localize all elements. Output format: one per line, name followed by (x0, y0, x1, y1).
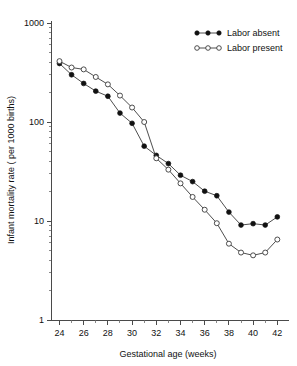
chart-legend: Labor absentLabor present (195, 28, 283, 53)
data-point (263, 250, 268, 255)
data-point (142, 120, 147, 125)
data-point (275, 237, 280, 242)
data-point (93, 74, 98, 79)
y-axis-tick-labels: 1000100101 (24, 18, 44, 325)
data-point (93, 89, 98, 94)
x-tick-label: 40 (248, 328, 258, 338)
data-point (105, 94, 110, 99)
x-tick-label: 28 (103, 328, 113, 338)
data-point (130, 105, 135, 110)
data-point (166, 161, 171, 166)
data-point (251, 253, 256, 258)
figure-container: 1000100101 24262830323436384042 Labor ab… (0, 0, 297, 366)
x-tick-label: 32 (151, 328, 161, 338)
x-tick-label: 38 (224, 328, 234, 338)
data-point (275, 215, 280, 220)
x-tick-label: 42 (272, 328, 282, 338)
data-point (251, 221, 256, 226)
x-tick-label: 34 (175, 328, 185, 338)
data-point (190, 194, 195, 199)
x-axis-title: Gestational age (weeks) (119, 349, 216, 359)
legend-item: Labor absent (195, 28, 280, 38)
y-axis-title: Infant mortality rate ( per 1000 births) (6, 96, 16, 244)
series-line (59, 61, 277, 255)
data-point (166, 167, 171, 172)
legend-marker-filled-circle-icon (206, 31, 210, 35)
legend-label: Labor absent (227, 28, 280, 38)
data-point (118, 111, 123, 116)
data-point (263, 223, 268, 228)
x-axis-tick-labels: 24262830323436384042 (54, 328, 282, 338)
legend-marker-open-circle-icon (206, 46, 211, 51)
data-point (227, 210, 232, 215)
data-point (214, 193, 219, 198)
x-tick-label: 30 (127, 328, 137, 338)
legend-item: Labor present (195, 43, 283, 53)
data-point (117, 93, 122, 98)
data-point (239, 250, 244, 255)
series-1 (57, 61, 280, 227)
data-point (142, 144, 147, 149)
data-point (154, 156, 159, 161)
data-point (57, 59, 62, 64)
y-tick-label: 1 (39, 315, 44, 325)
data-point (202, 189, 207, 194)
chart-plot: 1000100101 24262830323436384042 Labor ab… (0, 0, 297, 366)
x-axis-ticks (59, 320, 277, 325)
data-point (178, 181, 183, 186)
data-point (190, 179, 195, 184)
legend-marker-filled-circle-icon (195, 31, 199, 35)
data-point (178, 173, 183, 178)
data-point (214, 221, 219, 226)
data-point (202, 207, 207, 212)
series-line (59, 63, 277, 225)
data-point (226, 241, 231, 246)
data-point (81, 67, 86, 72)
data-point (69, 72, 74, 77)
data-point (69, 65, 74, 70)
y-tick-label: 10 (34, 216, 44, 226)
y-axis-ticks (47, 23, 51, 320)
legend-marker-open-circle-icon (195, 46, 200, 51)
legend-marker-open-circle-icon (217, 46, 222, 51)
data-series-group (57, 59, 280, 258)
series-2 (57, 59, 280, 258)
x-tick-label: 36 (200, 328, 210, 338)
y-tick-label: 100 (29, 117, 44, 127)
y-tick-label: 1000 (24, 18, 44, 28)
x-tick-label: 24 (54, 328, 64, 338)
data-point (81, 81, 86, 86)
data-point (130, 121, 135, 126)
data-point (239, 223, 244, 228)
data-point (105, 82, 110, 87)
legend-marker-filled-circle-icon (217, 31, 221, 35)
legend-label: Labor present (227, 43, 283, 53)
x-tick-label: 26 (79, 328, 89, 338)
